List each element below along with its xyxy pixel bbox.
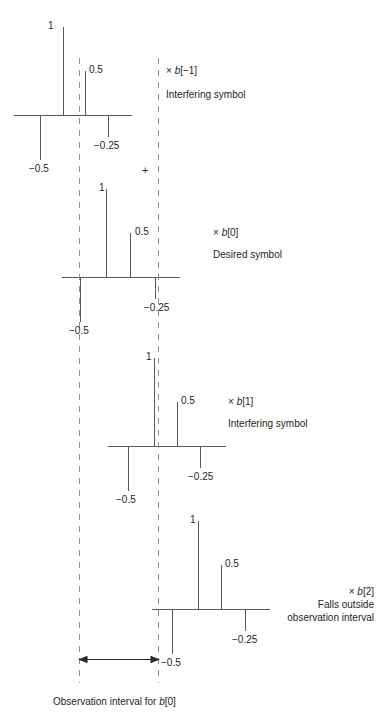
observation-interval-caption: Observation interval for b[0] [53,696,176,708]
panel3-symbol-index: [1] [242,396,253,407]
panel4-multiply-sign: × [349,586,355,597]
panel1-symbol-annotation: × b[−1] [166,64,197,77]
panel3-symbol-annotation: × b[1] [228,395,253,408]
panel1-role-label: Interfering symbol [166,88,245,101]
panel4-role-label-line2: observation interval [178,611,374,624]
panel4-label-half: 0.5 [225,558,239,570]
panel2-label-one: 1 [99,182,105,194]
panel2-label-neg-half: −0.5 [69,325,89,337]
isi-stem-figure: 1 0.5 −0.5 −0.25 × b[−1] Interfering sym… [0,0,382,720]
panel3-label-half: 0.5 [181,395,195,407]
panel4-label-neg-half: −0.5 [161,657,181,669]
panel2-multiply-sign: × [213,227,219,238]
panel4-annotation-block: × b[2] Falls outside observation interva… [178,585,374,624]
panel1-multiply-sign: × [166,65,172,76]
panel1-label-neg-quarter: −0.25 [94,140,119,152]
panel1-label-neg-half: −0.5 [29,163,49,175]
panel3-label-one: 1 [146,351,152,363]
panel3-label-neg-half: −0.5 [116,494,136,506]
panel2-role-label: Desired symbol [213,248,282,261]
panel1-label-one: 1 [48,20,54,32]
panel2-label-half: 0.5 [135,226,149,238]
panel4-label-neg-quarter: −0.25 [232,634,257,646]
panel2-symbol-annotation: × b[0] [213,226,238,239]
observation-interval-arrow [80,657,159,663]
sum-operator: + [142,165,148,176]
panel4-label-one: 1 [190,514,196,526]
panel3-role-label: Interfering symbol [228,417,307,430]
panel4-role-label-line1: Falls outside [178,598,374,611]
observation-interval-caption-prefix: Observation interval for [53,696,159,707]
panel1-label-half: 0.5 [89,64,103,76]
panel3-multiply-sign: × [228,396,234,407]
panel4-symbol-annotation: × b[2] [178,585,374,598]
panel2-label-neg-quarter: −0.25 [144,302,169,314]
observation-interval-caption-index: [0] [165,696,176,707]
panel3-label-neg-quarter: −0.25 [188,471,213,483]
panel4-symbol-index: [2] [363,586,374,597]
panel2-symbol-index: [0] [227,227,238,238]
panel1-symbol-index: [−1] [180,65,197,76]
